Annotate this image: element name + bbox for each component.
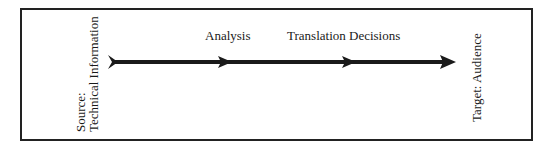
arrow-tail-icon xyxy=(108,55,118,69)
process-arrow xyxy=(0,0,554,151)
